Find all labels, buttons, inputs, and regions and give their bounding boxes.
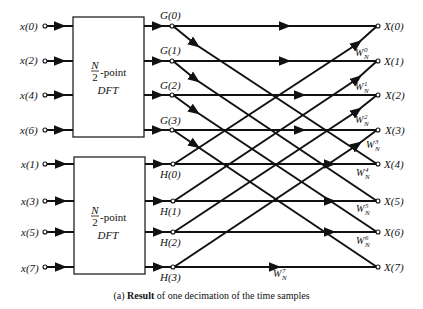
twiddle-w5: W 5 N [356, 202, 370, 217]
caption-bold: Result [127, 290, 154, 301]
svg-text:N: N [374, 145, 380, 153]
twiddle-w6: W 6 N [356, 234, 370, 249]
svg-text:N: N [363, 53, 369, 61]
svg-text:x(2): x(2) [19, 54, 38, 67]
input-x0: x(0) [19, 20, 73, 33]
twiddle-w7: W 7 N [273, 267, 287, 282]
input-x2: x(2) [19, 54, 73, 67]
label-X5: X(5) [383, 195, 404, 208]
input-x6: x(6) [19, 124, 73, 137]
svg-text:N: N [281, 274, 287, 282]
input-x3: x(3) [20, 195, 74, 208]
svg-text:N: N [90, 204, 99, 216]
input-x7: x(7) [20, 262, 74, 275]
svg-text:N: N [364, 173, 370, 181]
label-g3: G(3) [160, 114, 181, 127]
label-h1: H(1) [159, 205, 181, 218]
caption-text: of one decimation of the time samples [154, 290, 309, 301]
svg-text:N: N [364, 209, 370, 217]
svg-text:DFT: DFT [97, 229, 120, 241]
label-X7: X(7) [383, 261, 404, 274]
svg-text:x(5): x(5) [20, 226, 39, 239]
input-x1: x(1) [20, 158, 74, 171]
svg-text:x(0): x(0) [19, 20, 38, 33]
svg-text:2: 2 [92, 216, 98, 228]
svg-text:-point: -point [100, 66, 126, 78]
twiddle-w2: W 2 N [355, 113, 369, 128]
svg-text:N: N [363, 120, 369, 128]
label-X1: X(1) [383, 55, 404, 68]
twiddle-w1: W 1 N [355, 80, 369, 95]
svg-text:N: N [364, 241, 370, 249]
svg-text:x(1): x(1) [20, 158, 39, 171]
label-g1: G(1) [160, 44, 181, 57]
label-X0: X(0) [383, 20, 404, 33]
twiddle-w0: W 0 N [355, 46, 369, 61]
label-X6: X(6) [383, 226, 404, 239]
label-h2: H(2) [159, 236, 181, 249]
label-X4: X(4) [383, 158, 404, 171]
svg-text:x(6): x(6) [19, 124, 38, 137]
label-g2: G(2) [160, 79, 181, 92]
svg-text:DFT: DFT [97, 84, 120, 96]
twiddle-w3: W 3 N [366, 138, 380, 153]
svg-text:-point: -point [100, 211, 126, 223]
signal-flow-diagram: N 2 -point DFT N 2 -point DFT x(0) x(2) … [0, 0, 423, 290]
svg-text:N: N [363, 87, 369, 95]
label-X3: X(3) [384, 124, 405, 137]
twiddle-w4: W 4 N [356, 166, 370, 181]
label-g0: G(0) [160, 9, 181, 22]
svg-text:x(4): x(4) [19, 89, 38, 102]
svg-text:x(3): x(3) [20, 195, 39, 208]
figure-caption: (a) Result of one decimation of the time… [0, 290, 423, 301]
svg-text:x(7): x(7) [20, 262, 39, 275]
caption-tag: (a) [113, 290, 124, 301]
input-x4: x(4) [19, 89, 73, 102]
label-h3: H(3) [159, 271, 181, 284]
label-h0: H(0) [159, 168, 181, 181]
fft-flow-graph: N 2 -point DFT N 2 -point DFT x(0) x(2) … [0, 0, 423, 309]
label-X2: X(2) [384, 89, 405, 102]
svg-text:2: 2 [92, 71, 98, 83]
input-x5: x(5) [20, 226, 74, 239]
svg-text:N: N [90, 59, 99, 71]
